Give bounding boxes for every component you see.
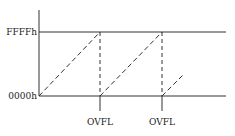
min-label: 0000h [8, 91, 37, 101]
max-label: FFFFh [6, 27, 37, 37]
ramp-3 [162, 75, 183, 96]
ovfl-label-2: OVFL [149, 117, 175, 127]
ovfl-label-1: OVFL [87, 117, 113, 127]
ramp-1 [39, 32, 100, 96]
ramp-2 [100, 32, 162, 96]
timer-overflow-diagram: FFFFh 0000h OVFL OVFL [0, 0, 235, 136]
